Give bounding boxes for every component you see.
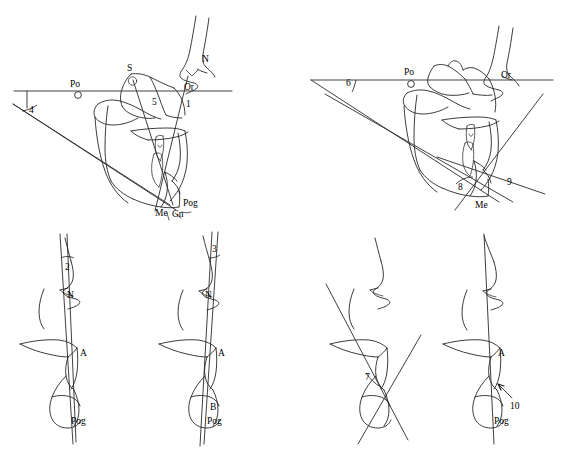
label-angle-10: 10 [510, 401, 520, 411]
label-me-panel1: Me [155, 208, 168, 218]
panel-bottom-2: 3 N A B Pog [150, 228, 280, 448]
label-n-panel4: N [205, 290, 212, 300]
panel-bottom-3-drawing: 7 [318, 232, 443, 448]
label-gn-panel1: Gn [172, 209, 184, 219]
panel-bottom-4: A 10 Pog [436, 232, 561, 448]
label-angle-3: 3 [212, 244, 217, 254]
label-angle-6: 6 [346, 78, 351, 88]
label-or-panel2: Or [501, 70, 512, 80]
label-or-panel1: Or [184, 82, 195, 92]
panel-top-left: Po S N Or 5 1 4 Pog Me Gn [0, 14, 240, 220]
label-pog-panel1: Pog [183, 198, 198, 208]
panel-bottom-4-drawing: A 10 Pog [436, 232, 561, 448]
panel-bottom-1: 2 N A Pog [10, 232, 135, 448]
panel-top-left-drawing: Po S N Or 5 1 4 Pog Me Gn [0, 14, 240, 220]
panel-bottom-3: 7 [318, 232, 443, 448]
label-me-panel2: Me [475, 200, 488, 210]
label-pog-panel6: Pog [494, 416, 509, 426]
panel-top-right-drawing: 6 Po Or 8 9 Me [303, 14, 561, 220]
label-angle-2: 2 [65, 262, 70, 272]
label-pog-panel4: Pog [207, 416, 222, 426]
label-a-panel4: A [218, 348, 225, 358]
panel-bottom-2-drawing: 3 N A B Pog [150, 228, 280, 448]
label-number-5-panel1: 5 [152, 97, 157, 107]
label-angle-9: 9 [507, 177, 512, 187]
label-b-panel4: B [210, 402, 216, 412]
label-angle-4: 4 [29, 105, 34, 115]
label-number-1-panel1: 1 [186, 99, 191, 109]
label-po-panel1: Po [70, 79, 80, 89]
label-pog-panel3: Pog [71, 416, 86, 426]
label-angle-8: 8 [458, 182, 463, 192]
label-s-panel1: S [127, 63, 132, 73]
panel-bottom-1-drawing: 2 N A Pog [10, 232, 135, 448]
cephalometric-figure: Po S N Or 5 1 4 Pog Me Gn [0, 0, 561, 452]
label-n-panel3: N [67, 290, 74, 300]
label-angle-7: 7 [365, 372, 370, 382]
label-po-panel2: Po [404, 67, 414, 77]
label-a-panel3: A [80, 348, 87, 358]
panel-top-right: 6 Po Or 8 9 Me [303, 14, 561, 220]
label-a-panel6: A [498, 348, 505, 358]
label-n-panel1: N [202, 54, 209, 64]
